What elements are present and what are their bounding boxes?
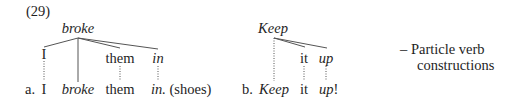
tree-b-node-it: it <box>300 51 308 66</box>
sentence-b-word-it: it <box>300 82 308 97</box>
tree-a-head: broke <box>62 21 94 36</box>
sentence-a-word-broke: broke <box>62 82 94 97</box>
sentence-a-word-them: them <box>106 82 135 97</box>
word-up-italic: up <box>319 81 334 97</box>
tree-b-head: Keep <box>258 21 288 36</box>
word-in-italic: in. <box>151 81 166 97</box>
edge-keep-up <box>274 38 327 48</box>
sentence-a-word-I: I <box>42 82 47 97</box>
tree-a-node-in: in <box>152 51 163 66</box>
sentence-a-label: a. <box>25 82 35 97</box>
sentence-a-trailing: (shoes) <box>170 81 212 97</box>
sentence-b-word-keep: Keep <box>259 82 289 97</box>
sentence-b-label: b. <box>242 82 253 97</box>
example-number: (29) <box>26 4 50 19</box>
annotation-line-2: constructions <box>417 58 494 73</box>
edge-broke-I <box>44 38 78 47</box>
annotation-line-1: – Particle verb <box>400 42 485 57</box>
annotation-text-1: Particle verb <box>411 41 485 57</box>
sentence-b-word-up: up! <box>319 82 338 97</box>
tree-a-node-them: them <box>106 51 135 66</box>
annotation-dash: – <box>400 41 407 57</box>
tree-b-node-up: up <box>319 51 334 66</box>
sentence-b-trailing: ! <box>334 81 339 97</box>
sentence-a-word-in: in. (shoes) <box>151 82 211 97</box>
tree-a-node-I: I <box>42 47 47 62</box>
